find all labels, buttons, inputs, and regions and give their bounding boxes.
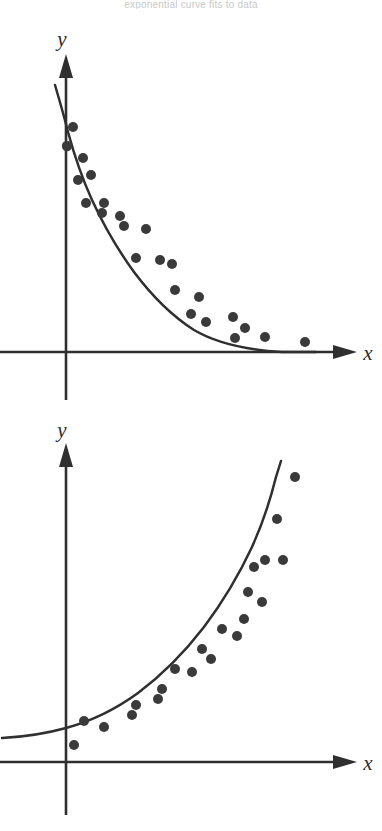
data-point: [99, 198, 109, 208]
data-point: [68, 122, 78, 132]
data-point: [81, 198, 91, 208]
data-point: [62, 141, 72, 151]
x-axis-arrowhead-icon: [333, 755, 357, 769]
data-point: [243, 587, 253, 597]
decay-plot-svg: y x: [0, 20, 382, 400]
data-point: [239, 614, 249, 624]
clipped-caption-text: exponential curve fits to data: [0, 0, 382, 9]
decay-fit-curve: [55, 85, 316, 352]
data-point: [201, 317, 211, 327]
exponential-growth-figure: y x: [0, 415, 382, 825]
data-point: [86, 170, 96, 180]
data-point: [197, 644, 207, 654]
data-point: [260, 332, 270, 342]
data-point: [69, 740, 79, 750]
x-axis-label: x: [362, 751, 373, 775]
data-point: [300, 337, 310, 347]
decay-scatter-points: [62, 122, 310, 347]
data-point: [240, 323, 250, 333]
data-point: [79, 716, 89, 726]
figure-page: exponential curve fits to data: [0, 0, 382, 831]
data-point: [217, 624, 227, 634]
data-point: [272, 514, 282, 524]
data-point: [230, 333, 240, 343]
data-point: [206, 654, 216, 664]
data-point: [290, 472, 300, 482]
data-point: [141, 224, 151, 234]
data-point: [131, 700, 141, 710]
data-point: [119, 221, 129, 231]
y-axis-arrowhead-icon: [59, 443, 73, 467]
data-point: [249, 562, 259, 572]
data-point: [170, 664, 180, 674]
growth-fit-curve: [2, 461, 281, 738]
data-point: [186, 309, 196, 319]
data-point: [257, 597, 267, 607]
data-point: [155, 255, 165, 265]
data-point: [99, 722, 109, 732]
data-point: [73, 175, 83, 185]
data-point: [187, 667, 197, 677]
data-point: [131, 253, 141, 263]
data-point: [127, 710, 137, 720]
data-point: [78, 153, 88, 163]
data-point: [115, 211, 125, 221]
data-point: [278, 555, 288, 565]
data-point: [232, 631, 242, 641]
data-point: [97, 208, 107, 218]
y-axis-label: y: [55, 418, 67, 442]
y-axis-label: y: [55, 27, 67, 51]
data-point: [228, 312, 238, 322]
data-point: [194, 292, 204, 302]
data-point: [167, 259, 177, 269]
data-point: [260, 555, 270, 565]
y-axis-arrowhead-icon: [59, 54, 73, 78]
data-point: [170, 285, 180, 295]
growth-plot-svg: y x: [0, 415, 382, 825]
data-point: [153, 694, 163, 704]
exponential-decay-figure: y x: [0, 20, 382, 400]
x-axis-arrowhead-icon: [333, 345, 357, 359]
x-axis-label: x: [362, 341, 373, 365]
data-point: [157, 684, 167, 694]
